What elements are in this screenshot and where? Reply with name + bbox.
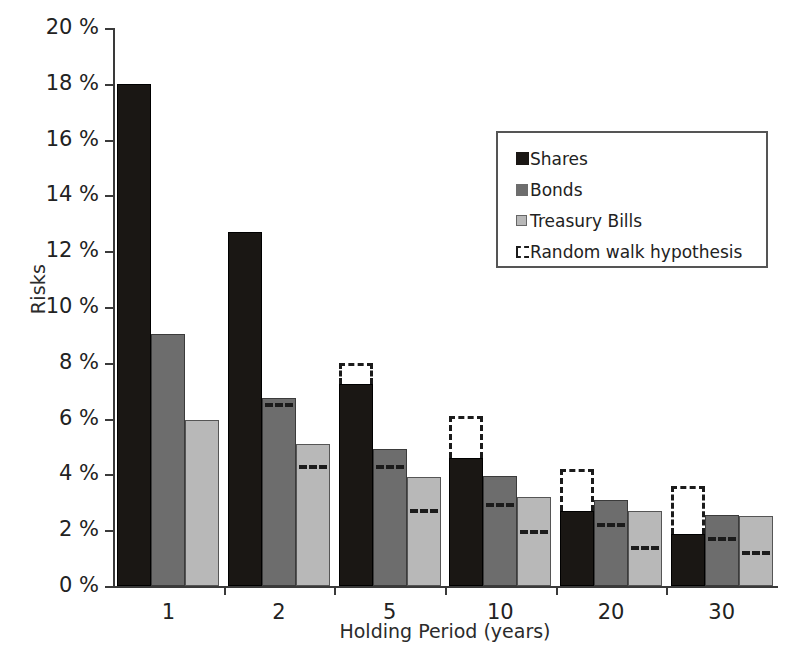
x-axis-tick — [224, 586, 226, 595]
bar-chart: Risks 0 %2 %4 %6 %8 %10 %12 %14 %16 %18 … — [0, 0, 795, 663]
y-axis-tick-label: 10 % — [46, 294, 99, 318]
y-axis-tick: 18 % — [105, 84, 113, 86]
legend-swatch-shares-icon — [516, 152, 530, 165]
random-walk-marker — [708, 537, 736, 541]
random-walk-marker — [265, 403, 293, 407]
bar-group — [117, 28, 219, 586]
x-axis-tick — [666, 586, 668, 595]
legend-item-bonds: Bonds — [516, 174, 766, 205]
bar — [594, 500, 628, 586]
bar — [373, 449, 407, 586]
y-axis-tick-label: 4 % — [59, 461, 99, 485]
bar — [671, 534, 705, 586]
bar-group — [560, 28, 662, 586]
y-axis-tick-label: 20 % — [46, 15, 99, 39]
bar — [449, 458, 483, 586]
random-walk-marker — [410, 509, 438, 513]
legend-item-shares: Shares — [516, 143, 766, 174]
bar-group — [228, 28, 330, 586]
y-axis-tick: 10 % — [105, 307, 113, 309]
random-walk-marker — [339, 363, 373, 384]
x-axis-tick — [334, 586, 336, 595]
random-walk-marker — [299, 465, 327, 469]
bar — [339, 384, 373, 586]
bar-group — [671, 28, 773, 586]
bar — [185, 420, 219, 586]
x-axis-tick — [445, 586, 447, 595]
x-axis-tick — [556, 586, 558, 595]
legend-swatch-bonds-icon — [516, 184, 530, 196]
legend-item-treasury-bills: Treasury Bills — [516, 205, 766, 236]
random-walk-marker — [376, 465, 404, 469]
y-axis-tick: 4 % — [105, 474, 113, 476]
bar — [151, 334, 185, 586]
y-axis-tick: 2 % — [105, 530, 113, 532]
y-axis-line — [113, 28, 115, 587]
y-axis-tick: 20 % — [105, 28, 113, 30]
y-axis-tick-label: 6 % — [59, 406, 99, 430]
y-axis-tick: 16 % — [105, 140, 113, 142]
random-walk-marker — [597, 523, 625, 527]
y-axis-tick: 6 % — [105, 419, 113, 421]
random-walk-marker — [742, 551, 770, 555]
y-axis-tick-label: 2 % — [59, 517, 99, 541]
y-axis-tick-label: 16 % — [46, 127, 99, 151]
chart-legend: Shares Bonds Treasury Bills Random walk … — [496, 131, 768, 268]
y-axis-tick: 8 % — [105, 363, 113, 365]
x-axis-title: Holding Period (years) — [113, 620, 777, 642]
random-walk-marker — [486, 503, 514, 507]
y-axis-tick-label: 14 % — [46, 182, 99, 206]
plot-area: 0 %2 %4 %6 %8 %10 %12 %14 %16 %18 %20 % … — [113, 28, 777, 586]
legend-label-treasury-bills: Treasury Bills — [530, 211, 642, 231]
bar — [483, 476, 517, 586]
random-walk-marker — [520, 530, 548, 534]
y-axis-tick-label: 0 % — [59, 573, 99, 597]
random-walk-marker — [631, 546, 659, 550]
bar — [517, 497, 551, 586]
legend-label-random-walk: Random walk hypothesis — [530, 242, 742, 262]
legend-swatch-random-walk-icon — [516, 246, 530, 258]
y-axis-tick: 12 % — [105, 251, 113, 253]
random-walk-marker — [560, 469, 594, 511]
legend-item-random-walk: Random walk hypothesis — [516, 236, 766, 267]
bar — [228, 232, 262, 586]
y-axis-tick-label: 12 % — [46, 238, 99, 262]
bar — [407, 477, 441, 586]
legend-swatch-treasury-bills-icon — [516, 215, 530, 226]
bar-group — [339, 28, 441, 586]
y-axis-tick-label: 18 % — [46, 71, 99, 95]
random-walk-marker — [449, 416, 483, 458]
bar — [705, 515, 739, 586]
y-axis-tick-label: 8 % — [59, 350, 99, 374]
legend-label-shares: Shares — [530, 149, 588, 169]
random-walk-marker — [671, 486, 705, 535]
y-axis-tick: 0 % — [105, 586, 113, 588]
y-axis-tick: 14 % — [105, 195, 113, 197]
legend-label-bonds: Bonds — [530, 180, 583, 200]
bar — [560, 511, 594, 586]
bar-group — [449, 28, 551, 586]
bar — [262, 398, 296, 586]
bar — [117, 84, 151, 586]
